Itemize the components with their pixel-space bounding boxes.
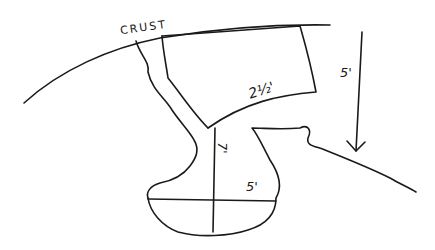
chamber-height-label: 7' — [216, 143, 228, 154]
diagram-canvas — [0, 0, 435, 250]
chamber-width-line — [148, 199, 276, 201]
shaft-right-wall — [162, 36, 208, 128]
depth-label: 5' — [340, 66, 352, 79]
crust-surface-arc — [24, 25, 330, 103]
chamber — [148, 127, 416, 236]
upper-slab — [162, 26, 316, 128]
chamber-width-label: 5' — [246, 180, 258, 193]
depth-arrow-shaft — [356, 32, 362, 151]
